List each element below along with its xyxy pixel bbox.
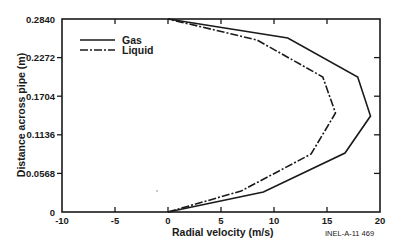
chart: -10-505101520 00.05680.11360.17040.22720… (0, 0, 401, 251)
y-axis-title: Distance across pipe (m) (15, 53, 27, 177)
x-tick-label: 20 (375, 215, 386, 226)
scan-speck (156, 190, 158, 192)
x-tick-label: -5 (111, 215, 120, 226)
y-tick-label: 0.1704 (26, 91, 56, 102)
y-tick-label: 0 (50, 207, 55, 218)
y-tick-label: 0.2840 (26, 14, 55, 25)
x-tick-label: 15 (322, 215, 333, 226)
y-tick-label: 0.1136 (26, 129, 55, 140)
x-axis-title: Radial velocity (m/s) (172, 226, 274, 238)
y-tick-label: 0.2272 (26, 52, 55, 63)
chart-background (0, 0, 401, 251)
x-tick-label: 10 (269, 215, 280, 226)
x-tick-label: 5 (218, 215, 224, 226)
x-tick-label: 0 (165, 215, 170, 226)
figure-id-annotation: INEL-A-11 469 (325, 229, 374, 238)
legend-liquid-label: Liquid (122, 44, 154, 56)
x-tick-label: -10 (55, 215, 69, 226)
y-tick-label: 0.0568 (26, 168, 55, 179)
